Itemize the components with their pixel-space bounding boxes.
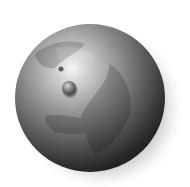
globe-scene bbox=[0, 0, 190, 187]
globe bbox=[15, 24, 165, 172]
continents-texture bbox=[15, 24, 165, 172]
location-marker-ball bbox=[62, 81, 76, 95]
